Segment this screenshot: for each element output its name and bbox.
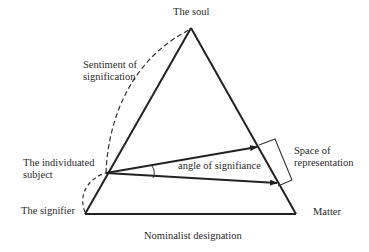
main-triangle <box>85 28 296 214</box>
arrow-lower <box>106 173 277 183</box>
label-nominalist-designation: Nominalist designation <box>144 230 242 242</box>
label-space-of-representation-line2: representation <box>294 157 353 169</box>
edge-soul-matter <box>191 28 296 214</box>
dashed-curve-signifier-subject <box>83 173 106 212</box>
label-angle-of-signifiance: angle of signifiance <box>178 160 261 172</box>
label-the-signifier: The signifier <box>21 205 75 217</box>
label-matter: Matter <box>313 206 341 218</box>
label-sentiment-line2: signification <box>83 71 136 83</box>
label-sentiment-line1: Sentiment of <box>83 59 137 71</box>
edge-signifier-soul <box>85 28 191 214</box>
label-space-of-representation-line1: Space of <box>294 145 330 157</box>
semiotic-triangle-diagram: The soul Sentiment of signification The … <box>0 0 369 252</box>
label-the-soul: The soul <box>173 6 209 18</box>
label-individuated-subject-line1: The individuated <box>23 157 94 169</box>
label-individuated-subject-line2: subject <box>23 169 53 181</box>
